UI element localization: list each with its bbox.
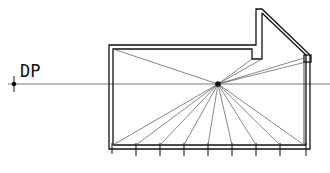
vanishing-point [215,81,221,87]
projection-rays [113,49,306,145]
perspective-plan-diagram [0,0,330,173]
room-outline [109,9,311,149]
station-point-marker [12,76,17,92]
